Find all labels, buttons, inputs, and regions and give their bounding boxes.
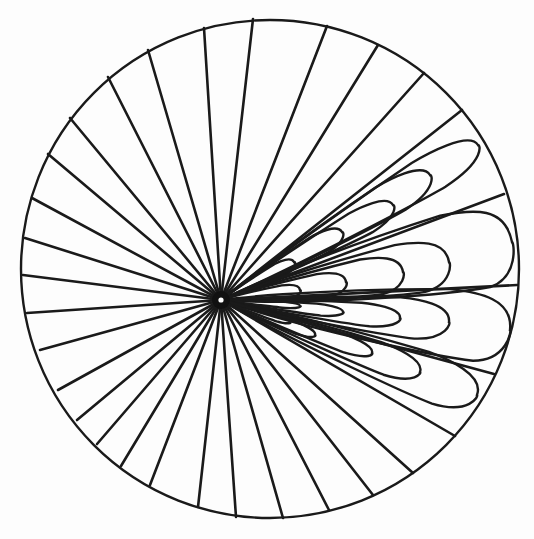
ray-line	[58, 300, 221, 390]
ray-line	[77, 300, 221, 420]
ray-line	[204, 28, 221, 300]
ray-diagram-figure	[0, 0, 534, 539]
teardrop-loop	[221, 170, 432, 300]
ray-line	[40, 300, 221, 350]
teardrop-loop	[221, 201, 394, 300]
boundary-circle	[21, 20, 519, 518]
ray-line	[221, 300, 283, 518]
ray-line	[97, 300, 221, 444]
ray-line	[70, 118, 221, 300]
focal-point-marker	[218, 297, 223, 302]
ray-line	[221, 300, 236, 517]
ray-line	[27, 300, 221, 313]
radial-rays	[23, 19, 517, 518]
ray-line	[23, 275, 221, 300]
ray-line	[221, 194, 504, 300]
teardrop-loop	[221, 140, 480, 300]
ray-line	[48, 154, 221, 300]
